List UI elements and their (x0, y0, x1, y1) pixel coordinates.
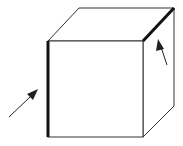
cube-diagram: Cube with highlighted edges (0, 0, 183, 146)
cube-svg (0, 0, 183, 146)
left-arrow-icon (9, 89, 38, 117)
cube-front-face (48, 41, 143, 137)
